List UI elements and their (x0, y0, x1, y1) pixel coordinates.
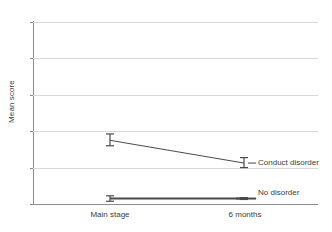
x-tick-label-main-stage: Main stage (90, 210, 129, 219)
x-tick-label-6-months: 6 months (229, 210, 262, 219)
series-layer (0, 0, 332, 232)
chart-container: Mean score 10 8 6 4 2 0 Conduct disorder… (0, 0, 332, 232)
series-label-no-disorder: No disorder (258, 189, 299, 197)
series-label-conduct-disorder: Conduct disorder (258, 159, 319, 167)
series-group (106, 134, 256, 201)
series-line-conduct-disorder (110, 140, 244, 163)
